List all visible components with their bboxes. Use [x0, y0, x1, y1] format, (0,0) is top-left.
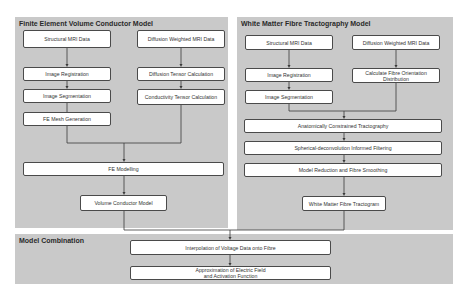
fe-structural-mri-box: Structural MRI Data: [23, 30, 111, 48]
conductivity-tensor-box: Conductivity Tensor Calculation: [137, 89, 225, 105]
fe-image-segmentation-box: Image Segmentation: [23, 89, 111, 103]
tr-structural-mri-box: Structural MRI Data: [245, 35, 333, 50]
interpolation-box: Interpolation of Voltage Data onto Fibre: [130, 240, 331, 255]
model-reduction-box: Model Reduction and Fibre Smoothing: [244, 163, 442, 177]
tr-image-segmentation-box: Image Segmentation: [245, 90, 333, 104]
diffusion-tensor-box: Diffusion Tensor Calculation: [137, 67, 225, 81]
fe-modelling-box: FE Modelling: [23, 162, 224, 176]
fibre-orientation-box: Calculate Fibre Orientation Distribution: [352, 68, 440, 83]
tractography-model-title: White Matter Fibre Tractography Model: [241, 20, 371, 27]
approximation-box: Approximation of Electric Field and Acti…: [130, 266, 331, 280]
tractogram-box: White Matter Fibre Tractogram: [302, 196, 386, 211]
fe-model-title: Finite Element Volume Conductor Model: [19, 20, 153, 27]
fe-diffusion-mri-box: Diffusion Weighted MRI Data: [137, 30, 225, 48]
sift-box: Spherical-deconvolution Informed Filteri…: [244, 141, 442, 155]
fe-mesh-box: FE Mesh Generation: [23, 112, 111, 126]
model-combination-title: Model Combination: [19, 237, 84, 244]
volume-conductor-box: Volume Conductor Model: [80, 195, 167, 211]
tr-image-registration-box: Image Registration: [245, 68, 333, 82]
act-box: Anatomically Constrained Tractography: [244, 119, 442, 133]
tr-diffusion-mri-box: Diffusion Weighted MRI Data: [352, 35, 440, 50]
fe-image-registration-box: Image Registration: [23, 67, 111, 81]
